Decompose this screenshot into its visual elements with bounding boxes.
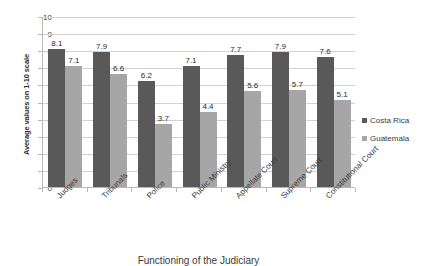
bar: 7.1 <box>65 66 82 187</box>
bar: 6.2 <box>138 81 155 187</box>
bar-group: 8.17.1 <box>48 17 82 187</box>
x-axis-tick-mark <box>42 188 43 192</box>
bar: 3.7 <box>155 124 172 187</box>
bar: 7.7 <box>227 55 244 187</box>
x-axis-tick-mark <box>266 188 267 192</box>
bar-group: 7.14.4 <box>183 17 217 187</box>
legend-swatch-icon <box>362 136 367 141</box>
x-axis-title: Functioning of the Judiciary <box>42 255 355 266</box>
bar-value-label: 5.6 <box>247 81 258 90</box>
bar: 7.9 <box>93 52 110 187</box>
bar-value-label: 7.1 <box>68 56 79 65</box>
bar-group: 7.75.6 <box>227 17 261 187</box>
legend-label: Costa Rica <box>370 116 409 125</box>
bar-group: 7.96.6 <box>93 17 127 187</box>
bar-value-label: 5.7 <box>292 80 303 89</box>
plot-area: 8.17.17.96.66.23.77.14.47.75.67.95.77.65… <box>42 17 355 188</box>
bar-value-label: 7.9 <box>96 42 107 51</box>
bar-value-label: 4.4 <box>202 102 213 111</box>
x-axis-tick-mark <box>131 188 132 192</box>
x-axis-tick-mark <box>355 188 356 192</box>
bar-value-label: 6.2 <box>141 71 152 80</box>
x-axis-tick-mark <box>310 188 311 192</box>
bar-value-label: 7.6 <box>320 47 331 56</box>
bar: 8.1 <box>48 49 65 188</box>
bar: 6.6 <box>110 74 127 187</box>
legend-item[interactable]: Guatemala <box>362 134 409 143</box>
bar-value-label: 6.6 <box>113 64 124 73</box>
bar-value-label: 7.7 <box>230 45 241 54</box>
bar-value-label: 7.1 <box>185 56 196 65</box>
bar-value-label: 5.1 <box>337 90 348 99</box>
x-axis-tick-mark <box>221 188 222 192</box>
legend-item[interactable]: Costa Rica <box>362 116 409 125</box>
bar-value-label: 8.1 <box>51 39 62 48</box>
bar: 7.6 <box>317 57 334 187</box>
x-axis-tick-mark <box>176 188 177 192</box>
bar-value-label: 7.9 <box>275 42 286 51</box>
bar: 7.9 <box>272 52 289 187</box>
legend-swatch-icon <box>362 118 367 123</box>
x-axis-tick-mark <box>87 188 88 192</box>
bar: 7.1 <box>183 66 200 187</box>
legend-label: Guatemala <box>370 134 409 143</box>
chart-legend: Costa RicaGuatemala <box>362 116 409 152</box>
bar-group: 6.23.7 <box>138 17 172 187</box>
bar-value-label: 3.7 <box>158 114 169 123</box>
